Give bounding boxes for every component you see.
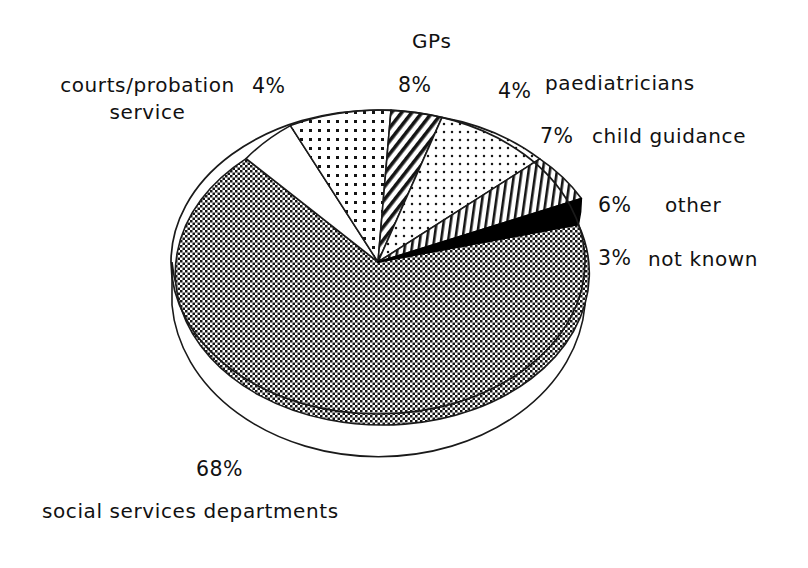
chart-canvas: courts/probation service 4% GPs 8% 4% pa… xyxy=(0,0,808,568)
slice-label-courts-probation-service: courts/probation service xyxy=(40,72,255,126)
slice-label-courts-line2: service xyxy=(40,99,255,126)
slice-percent-gps: 8% xyxy=(398,72,432,100)
slice-label-courts-line1: courts/probation xyxy=(40,72,255,99)
slice-percent-social-services-departments: 68% xyxy=(196,456,243,484)
slice-label-child-guidance: child guidance xyxy=(592,123,746,150)
slice-percent-other: 6% xyxy=(598,192,632,220)
slice-percent-paediatricians: 4% xyxy=(498,78,532,106)
slice-label-paediatricians: paediatricians xyxy=(545,70,695,97)
slice-label-social-services-departments: social services departments xyxy=(42,498,339,525)
slice-percent-not-known: 3% xyxy=(598,245,632,273)
slice-label-gps: GPs xyxy=(412,28,451,55)
slice-label-other: other xyxy=(665,192,721,219)
slice-label-not-known: not known xyxy=(648,246,758,273)
slice-percent-child-guidance: 7% xyxy=(540,123,574,151)
slice-percent-courts-probation-service: 4% xyxy=(252,73,286,101)
